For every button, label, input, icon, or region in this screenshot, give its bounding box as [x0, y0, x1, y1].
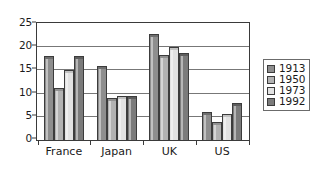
- bar-uk-1950: [159, 57, 169, 140]
- x-axis-label-japan: Japan: [101, 145, 132, 158]
- bar-uk-1992: [179, 55, 189, 140]
- bar-highlight: [46, 59, 48, 139]
- x-axis-tick-mark: [143, 141, 144, 145]
- bar-highlight: [119, 99, 121, 140]
- bar-japan-1992: [127, 98, 137, 140]
- x-axis-label-uk: UK: [162, 145, 177, 158]
- bar-highlight: [161, 58, 163, 140]
- bar-chart: 0510152025 1913195019731992 FranceJapanU…: [0, 0, 320, 174]
- legend-item-1992[interactable]: 1992: [267, 96, 305, 107]
- y-axis-tick-mark: [32, 91, 36, 92]
- bar-us-1950: [212, 124, 222, 139]
- legend-swatch-icon: [267, 76, 275, 84]
- bar-highlight: [151, 37, 153, 139]
- bar-highlight: [56, 91, 58, 140]
- legend-swatch-icon: [267, 65, 275, 73]
- bar-uk-1973: [169, 49, 179, 139]
- bar-japan-1973: [117, 98, 127, 140]
- bar-group-japan: [97, 24, 137, 140]
- bar-us-1913: [202, 114, 212, 140]
- x-axis-tick-mark: [249, 141, 250, 145]
- bar-highlight: [214, 125, 216, 139]
- bar-highlight: [181, 56, 183, 140]
- legend-swatch-icon: [267, 98, 275, 106]
- bar-highlight: [66, 73, 68, 139]
- bar-group-uk: [149, 24, 189, 140]
- x-axis-tick-mark: [90, 141, 91, 145]
- legend-swatch-icon: [267, 87, 275, 95]
- x-axis-tick-mark: [38, 141, 39, 145]
- bar-highlight: [109, 101, 111, 139]
- x-axis-tick-mark: [196, 141, 197, 145]
- y-axis-tick-label: 10: [19, 86, 32, 98]
- bar-france-1992: [74, 58, 84, 139]
- bar-us-1973: [222, 116, 232, 139]
- bar-highlight: [76, 59, 78, 139]
- bar-highlight: [224, 117, 226, 139]
- bar-japan-1913: [97, 68, 107, 140]
- legend: 1913195019731992: [263, 59, 310, 111]
- bar-group-france: [44, 24, 84, 140]
- y-axis-tick-mark: [32, 45, 36, 46]
- bar-highlight: [234, 106, 236, 140]
- bars-layer: [38, 24, 249, 140]
- bar-japan-1950: [107, 100, 117, 139]
- bar-highlight: [171, 50, 173, 139]
- y-axis-tick-label: 20: [19, 39, 32, 51]
- bar-highlight: [99, 69, 101, 140]
- y-axis-tick-mark: [32, 68, 36, 69]
- y-axis-tick-label: 15: [19, 62, 32, 74]
- y-axis-tick-mark: [32, 22, 36, 23]
- x-axis-label-us: US: [215, 145, 230, 158]
- y-axis-tick-mark: [32, 138, 36, 139]
- x-axis-label-france: France: [46, 145, 83, 158]
- bar-group-us: [202, 24, 242, 140]
- bar-us-1992: [232, 105, 242, 140]
- bar-highlight: [204, 115, 206, 140]
- y-axis-tick-mark: [32, 114, 36, 115]
- bar-france-1950: [54, 90, 64, 140]
- bar-uk-1913: [149, 36, 159, 139]
- bar-highlight: [129, 99, 131, 140]
- legend-label: 1992: [279, 96, 305, 107]
- bar-france-1973: [64, 72, 74, 139]
- bar-france-1913: [44, 58, 54, 139]
- y-axis-tick-label: 25: [19, 16, 32, 28]
